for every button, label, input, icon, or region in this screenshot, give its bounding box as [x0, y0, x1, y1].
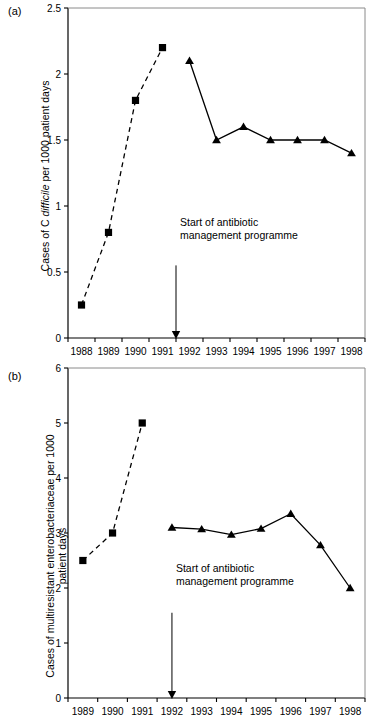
data-point-triangle: [239, 123, 248, 130]
annotation-line-1: Start of antibiotic: [180, 216, 258, 228]
figure-container: (a) Cases of C difficile per 1000 patien…: [0, 0, 374, 727]
panel-b-y-axis-title: Cases of multiresistant enterobacteriace…: [32, 411, 68, 701]
data-point-triangle: [185, 57, 194, 64]
x-tick-label: 1998: [340, 346, 363, 357]
x-tick-label: 1996: [280, 706, 303, 717]
series-line-square: [82, 48, 163, 305]
x-tick-label: 1996: [286, 346, 309, 357]
data-point-triangle: [346, 584, 355, 591]
y-tick-label: 2: [55, 69, 61, 80]
x-tick-label: 1995: [259, 346, 282, 357]
figure-caption: [0, 719, 374, 727]
panel-a-y-axis-title: Cases of C difficile per 1000 patient da…: [27, 56, 51, 296]
chart-panel-b: (b) Cases of multiresistant enterobacter…: [0, 360, 374, 727]
x-tick-label: 1988: [70, 346, 93, 357]
panel-a-plot: 00.511.522.51988198919901991199219931994…: [0, 0, 374, 360]
panel-a-annotation: Start of antibioticmanagement programme: [180, 216, 298, 242]
annotation-line-1: Start of antibiotic: [176, 562, 254, 574]
x-tick-label: 1994: [232, 346, 255, 357]
y-tick-label: 0: [55, 333, 61, 344]
x-tick-label: 1998: [339, 706, 362, 717]
chart-panel-a: (a) Cases of C difficile per 1000 patien…: [0, 0, 374, 360]
panel-b-label: (b): [8, 370, 21, 382]
plot-group: 00.511.522.51988198919901991199219931994…: [47, 3, 365, 357]
y-tick-label: 1: [55, 201, 61, 212]
x-tick-label: 1995: [250, 706, 273, 717]
x-tick-label: 1994: [220, 706, 243, 717]
y-tick-label: 6: [55, 363, 61, 374]
series-line-square: [83, 423, 142, 561]
x-tick-label: 1992: [161, 706, 184, 717]
x-tick-label: 1990: [101, 706, 124, 717]
panel-b-annotation: Start of antibioticmanagement programme: [176, 562, 294, 588]
annotation-line-2: management programme: [176, 575, 294, 587]
data-point-square: [109, 529, 116, 536]
x-tick-label: 1993: [205, 346, 228, 357]
x-tick-label: 1997: [309, 706, 332, 717]
plot-group: 0123456198919901991199219931994199519961…: [55, 363, 365, 717]
panel-a-label: (a): [8, 5, 21, 17]
data-point-triangle: [168, 523, 177, 530]
y-title-italic: difficile: [39, 184, 51, 216]
x-tick-label: 1991: [131, 706, 154, 717]
x-tick-label: 1997: [313, 346, 336, 357]
y-title-line-2: patient days: [56, 528, 68, 585]
y-title-line-1: Cases of multiresistant enterobacteriace…: [44, 434, 56, 677]
x-tick-label: 1993: [191, 706, 214, 717]
x-tick-label: 1989: [72, 706, 95, 717]
data-point-square: [139, 419, 146, 426]
data-point-triangle: [286, 510, 295, 517]
y-title-part3: per 1000 patient days: [39, 81, 51, 185]
data-point-square: [78, 301, 85, 308]
annotation-line-2: management programme: [180, 229, 298, 241]
y-tick-label: 2.5: [47, 3, 61, 14]
data-point-triangle: [212, 136, 221, 143]
data-point-square: [79, 557, 86, 564]
data-point-square: [159, 44, 166, 51]
data-point-triangle: [347, 149, 356, 156]
x-tick-label: 1992: [178, 346, 201, 357]
data-point-triangle: [257, 524, 266, 531]
data-point-square: [105, 229, 112, 236]
y-title-part1: Cases of C: [39, 217, 51, 272]
data-point-square: [132, 97, 139, 104]
x-tick-label: 1991: [151, 346, 174, 357]
x-tick-label: 1989: [97, 346, 120, 357]
x-tick-label: 1990: [124, 346, 147, 357]
